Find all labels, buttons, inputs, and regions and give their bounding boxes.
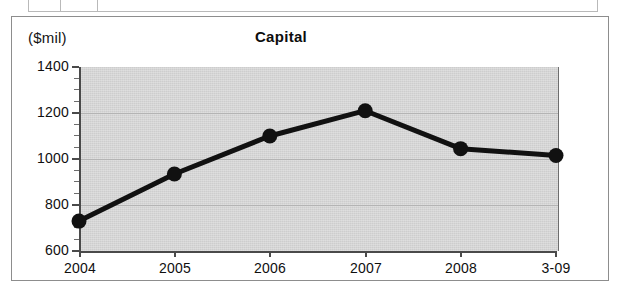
data-point-2005 (167, 166, 182, 181)
series-line (79, 111, 556, 221)
cut-off-table-row (0, 0, 620, 14)
capital-series (12, 17, 610, 282)
data-point-2004 (72, 214, 87, 229)
table-fragment-cell (486, 0, 532, 4)
table-fragment-divider (60, 0, 61, 12)
table-fragment-cell (552, 0, 594, 4)
data-point-2008 (453, 141, 468, 156)
data-point-2007 (358, 103, 373, 118)
data-point-2006 (262, 129, 277, 144)
data-point-3-09 (549, 148, 564, 163)
table-fragment-cell (418, 0, 464, 4)
table-fragment-divider (97, 0, 98, 12)
plot-wrapper: 1400 1200 1000 800 600 2004 2005 2006 20… (12, 17, 610, 282)
capital-chart-card: ($mil) Capital 1400 1200 1000 (11, 16, 609, 281)
